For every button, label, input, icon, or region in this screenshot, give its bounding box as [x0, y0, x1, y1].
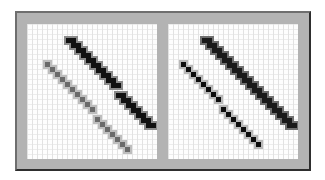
thin-line-pixel	[45, 62, 50, 67]
thin-line-pixel	[125, 147, 130, 152]
thick-line-pixel	[71, 43, 81, 48]
thin-line-pixel	[251, 137, 256, 142]
thin-line-pixel	[65, 82, 70, 87]
thick-line-pixel	[212, 48, 222, 53]
thick-line-pixel	[267, 103, 277, 108]
thin-line-pixel	[206, 87, 211, 92]
thin-line-pixel	[75, 92, 80, 97]
thin-line-pixel	[201, 82, 206, 87]
thick-line-pixel	[86, 58, 96, 63]
thick-line-pixel	[237, 73, 247, 78]
thick-line-pixel	[76, 48, 86, 53]
thin-line-pixel	[181, 62, 186, 67]
thin-line-pixel	[241, 127, 246, 132]
thick-line-pixel	[232, 68, 242, 73]
thick-line-pixel	[126, 103, 136, 108]
thin-line-pixel	[211, 92, 216, 97]
thick-line-pixel	[131, 108, 141, 113]
thin-line-pixel	[55, 72, 60, 77]
thick-line-pixel	[91, 63, 101, 68]
thick-line-pixel	[252, 88, 262, 93]
thick-line-pixel	[136, 113, 146, 118]
thick-line-pixel	[272, 108, 282, 113]
thick-line-pixel	[217, 53, 227, 58]
thick-line-pixel	[262, 98, 272, 103]
thin-line-pixel	[120, 142, 125, 147]
right-pixel-grid-panel	[168, 24, 298, 159]
thick-line-pixel	[222, 58, 232, 63]
thin-line-pixel	[221, 107, 226, 112]
thin-line-pixel	[246, 132, 251, 137]
thin-line-pixel	[186, 67, 191, 72]
thin-line-pixel	[95, 117, 100, 122]
thick-line-pixel	[101, 73, 111, 78]
thick-line-pixel	[66, 38, 76, 43]
thin-line-pixel	[70, 87, 75, 92]
thick-line-pixel	[121, 98, 131, 103]
thin-line-pixel	[216, 97, 221, 102]
thick-line-pixel	[146, 123, 156, 128]
thin-line-pixel	[226, 112, 231, 117]
right-line-drawing	[168, 24, 298, 159]
thick-line-pixel	[282, 118, 292, 123]
thick-line-pixel	[202, 38, 212, 43]
thick-line-pixel	[96, 68, 106, 73]
thin-line-pixel	[196, 77, 201, 82]
thick-line-pixel	[116, 93, 126, 98]
thick-line-pixel	[106, 78, 116, 83]
thick-line-pixel	[242, 78, 252, 83]
thin-line-pixel	[90, 107, 95, 112]
left-pixel-grid-panel	[27, 24, 157, 159]
thin-line-pixel	[110, 132, 115, 137]
thick-line-pixel	[141, 118, 151, 123]
left-line-drawing	[27, 24, 157, 159]
thick-line-pixel	[227, 63, 237, 68]
thick-line-pixel	[247, 83, 257, 88]
thin-line-pixel	[115, 137, 120, 142]
thick-line-pixel	[207, 43, 217, 48]
thin-line-pixel	[60, 77, 65, 82]
thin-line-pixel	[50, 67, 55, 72]
thin-line-pixel	[231, 117, 236, 122]
thin-line-pixel	[80, 97, 85, 102]
thin-line-pixel	[105, 127, 110, 132]
thick-line-pixel	[111, 83, 121, 88]
thick-line-pixel	[287, 123, 297, 128]
thick-line-pixel	[277, 113, 287, 118]
thick-line-pixel	[81, 53, 91, 58]
thick-line-pixel	[257, 93, 267, 98]
thin-line-pixel	[256, 142, 261, 147]
thin-line-pixel	[236, 122, 241, 127]
thin-line-pixel	[85, 102, 90, 107]
thin-line-pixel	[100, 122, 105, 127]
thin-line-pixel	[191, 72, 196, 77]
